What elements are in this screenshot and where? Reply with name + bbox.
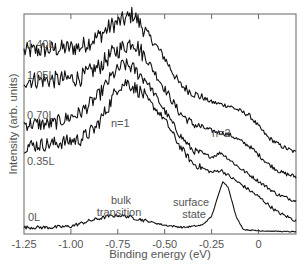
spectra-chart: -1.25-1.00-0.75-0.50-0.250 1.40L 1.05L 0… <box>0 0 307 270</box>
spectrum-1.40L <box>24 7 296 152</box>
annotation-bulk: bulk <box>111 194 132 206</box>
y-axis-title: Intensity (arb. units) <box>7 73 19 174</box>
x-tick-label: 0 <box>255 238 261 250</box>
spectrum-1.05L <box>24 40 296 178</box>
annotation-transition: transition <box>97 206 142 218</box>
spectra-curves <box>24 7 296 232</box>
label-0.70L: 0.70L <box>27 109 55 121</box>
label-0L: 0L <box>28 211 40 223</box>
annotation-state: state <box>182 208 206 220</box>
plot-frame <box>24 14 296 234</box>
spectrum-0.70L <box>24 59 296 202</box>
x-tick-label: -1.25 <box>11 238 36 250</box>
label-1.05L: 1.05L <box>27 69 55 81</box>
annotation-surface: surface <box>173 196 209 208</box>
label-1.40L: 1.40L <box>27 38 55 50</box>
label-0.35L: 0.35L <box>27 155 55 167</box>
annotation-n1: n=1 <box>111 117 130 129</box>
annotation-n2: n=2 <box>212 127 231 139</box>
spectrum-0L <box>24 182 296 232</box>
x-tick-label: -1.00 <box>58 238 83 250</box>
x-axis-title: Binding energy (eV) <box>109 248 211 260</box>
